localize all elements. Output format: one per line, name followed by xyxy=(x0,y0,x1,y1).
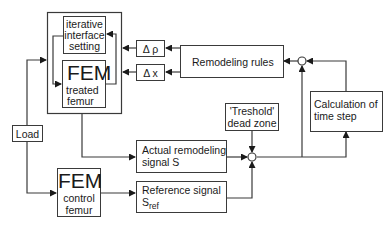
delta-rho-block: Δ ρ xyxy=(136,40,165,57)
actual-remodeling-signal-block: Actual remodeling signal S xyxy=(136,140,227,173)
fem-treated-line-2: femur xyxy=(67,95,94,107)
delta-x-block: Δ x xyxy=(136,64,165,81)
remodeling-rules-block: Remodeling rules xyxy=(180,45,284,78)
calc-line-2: time step xyxy=(314,110,357,122)
load-label: Load xyxy=(13,128,42,140)
delta-x-label: Δ x xyxy=(137,67,164,79)
iterative-line-3: setting xyxy=(64,40,105,52)
reference-signal-line-1: Reference signal xyxy=(142,184,221,196)
threshold-line-2: dead zone xyxy=(226,117,278,129)
load-block: Load xyxy=(12,125,43,142)
actual-signal-line-2: signal S xyxy=(142,156,179,168)
fem-control-title: FEM xyxy=(58,170,100,192)
summing-junction-bottom xyxy=(248,153,256,161)
fem-control-line-2: femur xyxy=(58,204,100,216)
s-symbol: S xyxy=(142,196,149,208)
actual-signal-line-1: Actual remodeling xyxy=(142,144,226,156)
calc-line-1: Calculation of xyxy=(314,98,378,110)
delta-rho-label: Δ ρ xyxy=(137,43,164,55)
iterative-interface-setting-block: iterative interface setting xyxy=(63,16,106,54)
remodeling-rules-label: Remodeling rules xyxy=(192,56,274,68)
threshold-line-1: 'Treshold' xyxy=(226,105,278,117)
ref-subscript: ref xyxy=(149,201,159,211)
fem-treated-title: FEM xyxy=(67,62,111,84)
fem-treated-femur-block: FEM treated femur xyxy=(62,60,106,108)
threshold-dead-zone-block: 'Treshold' dead zone xyxy=(225,103,279,131)
summing-junction-top xyxy=(298,57,306,65)
fem-control-line-1: control xyxy=(58,192,100,204)
fem-control-femur-block: FEM control femur xyxy=(57,168,101,217)
reference-signal-symbol: Sref xyxy=(142,196,159,212)
calculation-time-step-block: Calculation of time step xyxy=(310,91,383,132)
reference-signal-block: Reference signal Sref xyxy=(136,181,227,213)
